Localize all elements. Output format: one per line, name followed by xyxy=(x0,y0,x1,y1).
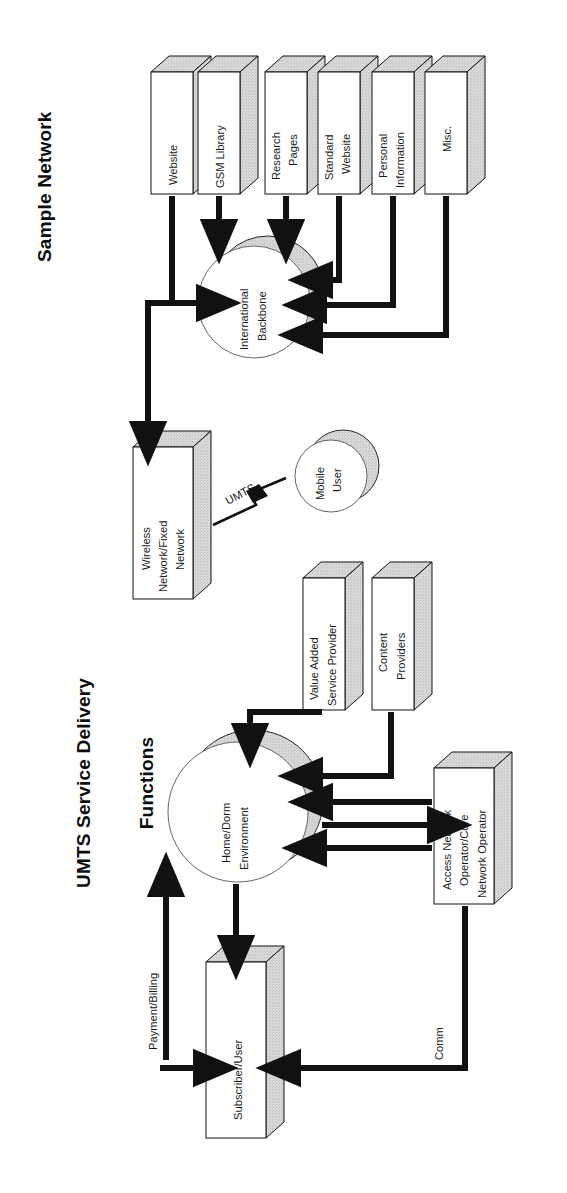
node-content-providers[interactable]: Content Providers xyxy=(372,562,432,710)
node-misc-label: Misc. xyxy=(441,126,453,152)
edge-vasp-to-home-dorm xyxy=(250,712,322,726)
node-mobile-user-label-line1: Mobile xyxy=(314,467,326,500)
edge-label-umts: UMTS xyxy=(223,481,257,506)
node-wireless-fixed-network-label-line2: Network/Fixed xyxy=(157,521,169,593)
node-research-pages[interactable]: Research Pages xyxy=(265,56,325,194)
node-website-label: Website xyxy=(167,145,179,185)
edge-website-to-backbone xyxy=(172,196,199,303)
node-personal-information-label-line2: Information xyxy=(394,132,406,188)
node-content-providers-label-line2: Providers xyxy=(395,632,407,680)
node-content-providers-label-line1: Content xyxy=(377,632,389,672)
node-international-backbone-label-line2: Backbone xyxy=(256,291,268,341)
node-wireless-fixed-network-label-line1: Wireless xyxy=(140,527,152,570)
node-access-network-operator-label-line3: Network Operator xyxy=(476,809,488,898)
scanned-figure-page: Sample Network UMTS Service Delivery Fun… xyxy=(0,0,567,1193)
node-personal-information-label-line1: Personal xyxy=(377,134,389,178)
node-home-dorm-environment-label-line1: Home/Dorm xyxy=(220,803,232,863)
edge-backbone-to-wireless-network xyxy=(148,303,172,424)
node-research-pages-label-line2: Pages xyxy=(287,134,299,166)
node-wireless-fixed-network[interactable]: Wireless Network/Fixed Network xyxy=(133,431,211,599)
node-standard-website-label-line1: Standard xyxy=(323,135,335,180)
node-mobile-user-label-line2: User xyxy=(331,468,343,492)
node-access-network-operator-label-line1: Access Network xyxy=(441,809,453,890)
diagram-canvas: Website GSM Library Research Pages xyxy=(0,0,567,1193)
figure-sample-network: Website GSM Library Research Pages xyxy=(133,56,485,599)
node-subscriber-user-label: Subscriber/User xyxy=(232,1040,244,1120)
node-gsm-library-label: GSM Library xyxy=(214,125,226,188)
node-standard-website[interactable]: Standard Website xyxy=(318,56,378,194)
node-personal-information[interactable]: Personal Information xyxy=(372,56,432,194)
node-research-pages-label-line1: Research xyxy=(270,132,282,180)
node-access-network-operator-label-line2: Operator/Core xyxy=(458,814,470,886)
node-value-added-service-provider[interactable]: Value Added Service Provider xyxy=(303,562,363,710)
edge-label-comm: Comm xyxy=(433,1027,445,1060)
node-international-backbone[interactable]: International Backbone xyxy=(198,236,324,358)
edge-personal-information-to-backbone xyxy=(324,196,393,305)
node-gsm-library[interactable]: GSM Library xyxy=(198,56,258,194)
node-value-added-service-provider-label-line1: Value Added xyxy=(308,637,320,700)
node-access-network-operator[interactable]: Access Network Operator/Core Network Ope… xyxy=(434,752,512,904)
edge-content-providers-to-home-dorm xyxy=(320,712,391,776)
node-international-backbone-label-line1: International xyxy=(238,288,250,350)
node-wireless-fixed-network-label-line3: Network xyxy=(174,529,186,570)
node-home-dorm-environment[interactable]: Home/Dorm Environment xyxy=(168,730,323,882)
edge-label-payment-billing: Payment/Billing xyxy=(147,973,159,1050)
figure-umts-service-delivery: Value Added Service Provider Content Pro… xyxy=(147,562,512,1138)
node-misc[interactable]: Misc. xyxy=(425,56,485,194)
node-mobile-user[interactable]: Mobile User xyxy=(295,430,379,512)
node-value-added-service-provider-label-line2: Service Provider xyxy=(326,624,338,706)
node-home-dorm-environment-label-line2: Environment xyxy=(238,806,250,870)
edge-standard-website-to-backbone xyxy=(330,196,339,280)
node-standard-website-label-line2: Website xyxy=(340,134,352,174)
node-subscriber-user[interactable]: Subscriber/User xyxy=(206,946,284,1138)
